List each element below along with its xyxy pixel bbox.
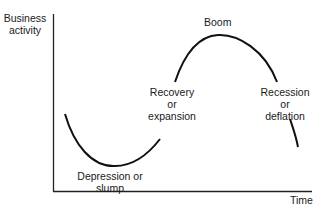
phase-label-recession: Recession or deflation [256, 86, 314, 122]
phase-label-recovery: Recovery or expansion [142, 86, 202, 122]
phase-label-boom: Boom [204, 16, 231, 28]
cycle-curve-tail [290, 119, 298, 147]
x-axis-label: Time [290, 194, 313, 206]
cycle-curve-peak [175, 35, 277, 82]
phase-label-depression: Depression or slump [70, 170, 150, 194]
y-axis-label: Business activity [2, 12, 48, 36]
